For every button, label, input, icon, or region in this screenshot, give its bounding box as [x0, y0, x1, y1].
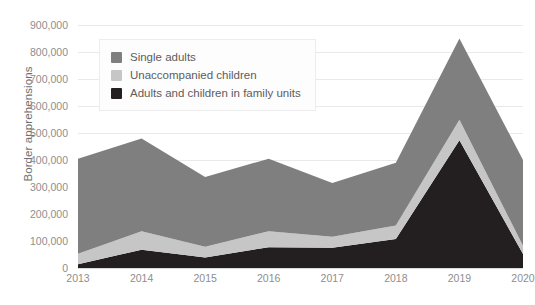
- legend-item-single-adults: Single adults: [111, 48, 301, 66]
- y-axis-tick-label: 200,000: [30, 208, 68, 220]
- legend-swatch-single-adults: [111, 52, 122, 63]
- x-axis-tick-label: 2015: [193, 272, 216, 284]
- x-axis-tick-label: 2020: [511, 272, 534, 284]
- y-axis-tick-labels: 0100,000200,000300,000400,000500,000600,…: [0, 25, 72, 268]
- x-axis-tick-label: 2017: [321, 272, 344, 284]
- legend-item-unaccompanied-children: Unaccompanied children: [111, 66, 301, 84]
- gridline: [78, 268, 523, 269]
- y-axis-tick-label: 800,000: [30, 46, 68, 58]
- y-axis-tick-label: 700,000: [30, 73, 68, 85]
- y-axis-tick-label: 100,000: [30, 235, 68, 247]
- legend-label-family-units: Adults and children in family units: [130, 87, 301, 99]
- x-axis-tick-label: 2014: [130, 272, 153, 284]
- y-axis-tick-label: 900,000: [30, 19, 68, 31]
- x-axis-tick-label: 2016: [257, 272, 280, 284]
- legend-label-unaccompanied-children: Unaccompanied children: [130, 69, 257, 81]
- legend-swatch-family-units: [111, 88, 122, 99]
- x-axis-tick-label: 2019: [448, 272, 471, 284]
- x-axis-tick-labels: 20132014201520162017201820192020: [78, 272, 523, 292]
- y-axis-tick-label: 600,000: [30, 100, 68, 112]
- x-axis-tick-label: 2013: [66, 272, 89, 284]
- y-axis-tick-label: 500,000: [30, 127, 68, 139]
- x-axis-tick-label: 2018: [384, 272, 407, 284]
- y-axis-tick-label: 400,000: [30, 154, 68, 166]
- legend-label-single-adults: Single adults: [130, 51, 196, 63]
- y-axis-tick-label: 300,000: [30, 181, 68, 193]
- legend-swatch-unaccompanied-children: [111, 70, 122, 81]
- chart-legend: Single adults Unaccompanied children Adu…: [99, 39, 316, 111]
- legend-item-family-units: Adults and children in family units: [111, 84, 301, 102]
